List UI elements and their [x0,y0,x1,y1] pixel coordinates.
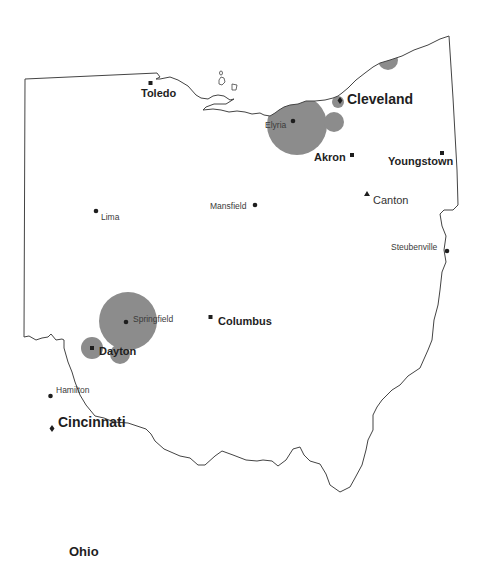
marker-steubenville-dot[interactable] [445,249,450,254]
marker-akron-square[interactable] [350,153,354,157]
city-label-steubenville[interactable]: Steubenville [391,243,437,252]
city-label-columbus[interactable]: Columbus [218,316,272,327]
marker-hamilton-dot[interactable] [48,394,53,399]
city-label-cincinnati[interactable]: Cincinnati [58,415,126,429]
city-label-springfield[interactable]: Springfield [133,315,173,324]
map-title: Ohio [69,544,99,559]
city-label-dayton[interactable]: Dayton [99,346,136,357]
marker-lima-dot[interactable] [94,209,99,214]
city-label-elyria[interactable]: Elyria [265,121,286,130]
marker-cincinnati-diamond[interactable] [50,425,55,432]
city-label-mansfield[interactable]: Mansfield [210,202,246,211]
marker-toledo-square[interactable] [149,81,153,85]
marker-mansfield-dot[interactable] [253,203,258,208]
city-label-cleveland[interactable]: Cleveland [347,92,413,106]
island-bass [232,84,237,90]
bubble-cleveland-southeast [324,112,344,132]
island-kelleys [219,77,225,85]
marker-columbus-square[interactable] [209,315,213,319]
lake-erie-islands [219,71,237,90]
island-small [220,71,223,75]
marker-canton-triangle[interactable] [364,191,370,196]
marker-elyria-dot[interactable] [291,119,296,124]
city-label-akron[interactable]: Akron [314,152,346,163]
ohio-map [0,0,477,582]
markers [48,81,449,432]
marker-springfield-dot[interactable] [124,320,129,325]
city-label-canton[interactable]: Canton [373,195,408,206]
city-label-lima[interactable]: Lima [101,213,119,222]
city-label-hamilton[interactable]: Hamilton [56,386,90,395]
marker-dayton-square[interactable] [90,346,94,350]
bubble-ashtabula [378,50,398,70]
city-label-youngstown[interactable]: Youngstown [388,156,453,167]
city-label-toledo[interactable]: Toledo [141,88,176,99]
